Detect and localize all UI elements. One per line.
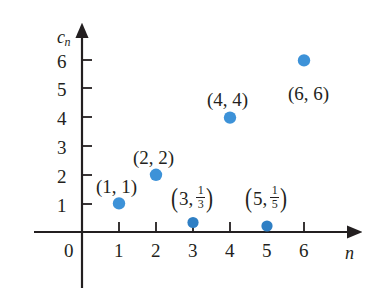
- y-axis-label: cn: [57, 28, 71, 48]
- fraction-one-third: 1 3: [196, 184, 205, 210]
- point-label-1-1: (1, 1): [96, 177, 137, 196]
- x-tick-label-1: 1: [114, 241, 124, 260]
- point-label-5-one-fifth: ( 5, 1 5 ): [244, 185, 288, 211]
- y-tick-label-1: 1: [57, 196, 67, 215]
- fraction-denominator: 3: [197, 198, 205, 210]
- fraction-denominator: 5: [271, 198, 279, 210]
- y-axis-label-base: c: [57, 27, 65, 47]
- open-paren: (: [171, 188, 178, 209]
- y-tick-label-2: 2: [57, 167, 67, 186]
- x-tick-label-3: 3: [188, 241, 198, 260]
- close-paren: ): [280, 188, 287, 209]
- x-tick-label-2: 2: [151, 241, 161, 260]
- point-label-3-one-third: ( 3, 1 3 ): [170, 185, 214, 211]
- data-point[interactable]: [298, 54, 310, 66]
- data-point[interactable]: [261, 220, 272, 231]
- fraction-numerator: 1: [197, 184, 205, 196]
- point-label-3-whole: 3,: [179, 189, 193, 208]
- y-axis-ticks: [82, 60, 92, 204]
- scatter-plot-figure: cn n 6 5 4 3 2 1 0 1 2 3 4 5 6 (1, 1) (2…: [0, 0, 377, 294]
- data-point[interactable]: [187, 217, 198, 228]
- point-label-5-whole: 5,: [253, 189, 267, 208]
- y-axis-label-subscript: n: [65, 35, 71, 49]
- open-paren: (: [245, 188, 252, 209]
- point-label-2-2: (2, 2): [133, 148, 174, 167]
- y-tick-label-6: 6: [57, 52, 67, 71]
- point-label-6-6: (6, 6): [288, 84, 329, 103]
- y-tick-label-3: 3: [57, 138, 67, 157]
- fraction-one-fifth: 1 5: [270, 184, 279, 210]
- y-tick-label-4: 4: [57, 109, 67, 128]
- x-tick-label-6: 6: [299, 241, 309, 260]
- data-point[interactable]: [224, 111, 236, 123]
- close-paren: ): [206, 188, 213, 209]
- origin-label: 0: [64, 241, 74, 260]
- x-tick-label-4: 4: [225, 241, 235, 260]
- data-point[interactable]: [113, 197, 125, 209]
- fraction-numerator: 1: [271, 184, 279, 196]
- x-axis-ticks: [119, 222, 304, 232]
- x-tick-label-5: 5: [262, 241, 272, 260]
- point-label-4-4: (4, 4): [207, 90, 248, 109]
- y-tick-label-5: 5: [57, 80, 67, 99]
- x-axis-label: n: [345, 244, 354, 262]
- data-point[interactable]: [150, 169, 162, 181]
